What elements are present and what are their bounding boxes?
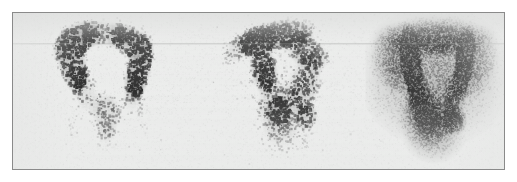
scintigraphy-figure: [0, 0, 517, 182]
scintigram-render-canvas: [13, 13, 504, 169]
scan-plate-frame: [12, 12, 505, 170]
